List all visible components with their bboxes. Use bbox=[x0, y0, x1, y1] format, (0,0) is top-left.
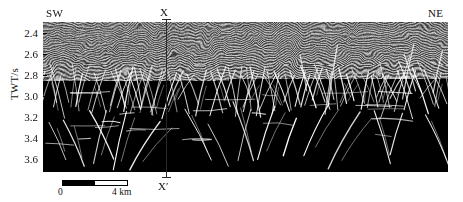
direction-label-sw: SW bbox=[46, 7, 63, 19]
section-label-x: X bbox=[160, 6, 168, 18]
y-axis-tick-mark bbox=[43, 117, 47, 118]
scale-bar-label-right: 4 km bbox=[112, 187, 131, 197]
direction-label-ne: NE bbox=[428, 7, 443, 19]
y-axis-tick-label: 3.6 bbox=[4, 154, 38, 164]
y-axis-label: TWT/s bbox=[8, 54, 20, 114]
section-line-top-tick bbox=[162, 19, 171, 20]
y-axis-tick-label: 3.4 bbox=[4, 133, 38, 143]
y-axis-tick-label: 3.2 bbox=[4, 112, 38, 122]
section-label-x-prime: X′ bbox=[158, 180, 168, 192]
seismic-section-figure: TWT/s 2.42.62.83.03.23.43.6 SW NE X X′ 0… bbox=[0, 0, 463, 202]
y-axis-tick-label: 2.8 bbox=[4, 70, 38, 80]
y-axis-tick-mark bbox=[43, 33, 47, 34]
y-axis-tick-label: 2.4 bbox=[4, 28, 38, 38]
seismic-image-panel bbox=[43, 22, 448, 172]
section-line-bottom-tick bbox=[162, 177, 171, 178]
y-axis-tick-mark bbox=[43, 54, 47, 55]
seismic-raster bbox=[43, 22, 448, 172]
y-axis-tick-mark bbox=[43, 159, 47, 160]
scale-bar bbox=[62, 180, 128, 186]
y-axis-tick-mark bbox=[43, 96, 47, 97]
scale-bar-label-left: 0 bbox=[58, 187, 63, 197]
scale-bar-filled-segment bbox=[63, 181, 95, 185]
y-axis-tick-label: 2.6 bbox=[4, 49, 38, 59]
y-axis-tick-label: 3.0 bbox=[4, 91, 38, 101]
y-axis-tick-mark bbox=[43, 138, 47, 139]
y-axis-tick-mark bbox=[43, 75, 47, 76]
section-line bbox=[166, 19, 167, 178]
